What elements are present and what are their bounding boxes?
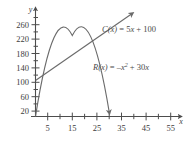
x-tick-label-45: 45 [142,123,151,133]
y-tick-label-180: 180 [16,49,29,59]
cost-fn-tail: + 100 [134,24,156,34]
rev-fn-name: R(x) [92,62,108,72]
rev-fn-var2: x [144,62,149,72]
cost-function-label: C(x) = 5x + 100 [102,24,156,34]
x-tick-label-5: 5 [46,123,50,133]
x-tick-label-25: 25 [93,123,102,133]
cost-fn-name: C(x) [102,24,117,34]
rev-fn-tail: + 30 [128,62,146,72]
y-tick-label-20: 20 [21,106,30,116]
x-axis-tick-labels: 5 15 25 35 45 55 [46,123,175,133]
chart-figure: 20 60 100 140 180 220 260 5 15 25 35 [0,0,188,149]
y-tick-label-60: 60 [21,92,30,102]
y-axis-label: y [28,5,33,14]
x-axis-label: x [178,117,183,126]
cost-fn-eq: = 5 [117,24,130,34]
y-tick-label-100: 100 [16,77,29,87]
x-tick-label-35: 35 [117,123,126,133]
x-tick-label-55: 55 [166,123,175,133]
y-tick-label-260: 260 [16,20,29,30]
rev-fn-eq: = – [108,62,122,72]
x-tick-label-15: 15 [68,123,77,133]
y-tick-label-140: 140 [16,63,29,73]
y-axis-tick-labels: 20 60 100 140 180 220 260 [16,20,29,116]
revenue-function-label: R(x) = –x2 + 30x [92,62,149,72]
y-tick-label-220: 220 [16,34,29,44]
chart-plot-area: 20 60 100 140 180 220 260 5 15 25 35 [0,0,188,149]
